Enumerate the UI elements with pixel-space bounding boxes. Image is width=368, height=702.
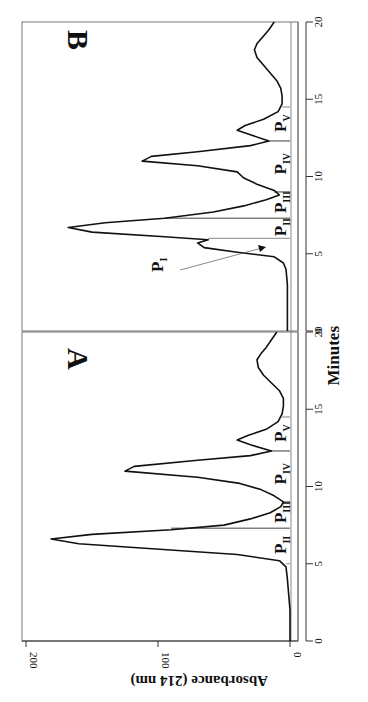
panel-b-letter: B: [62, 30, 95, 50]
peak-label-iv: PIV: [271, 152, 292, 174]
peak-label-iii: PIII: [271, 191, 292, 213]
panel-b-peak-regions: PIIPIIIPIVPV: [165, 107, 292, 238]
peak-label-ii: PII: [271, 218, 292, 236]
panel-a: 05101520 PIIPIIIPIVPV A: [22, 326, 324, 644]
y-tick-label: 100: [160, 652, 172, 669]
chromatogram-figure: 05101520 PIIPIIIPIVPV A 05101520 PIIPIII…: [0, 0, 368, 702]
panel-a-peak-regions: PIIPIIIPIVPV: [171, 417, 292, 564]
y-tick-label: 200: [28, 652, 40, 669]
panel-b-trace: [68, 22, 287, 331]
panel-a-trace: [51, 332, 290, 641]
x-tick-label: 10: [312, 171, 324, 183]
x-tick-label: 5: [312, 251, 324, 257]
y-tick-label: 0: [292, 652, 304, 658]
arrowhead-icon: [258, 245, 266, 252]
peak-label-v: PV: [271, 424, 292, 442]
y-tick-labels: 0100200: [26, 641, 304, 669]
p-i-annotation: PI: [148, 245, 266, 272]
x-tick-label: 20: [312, 16, 324, 28]
panel-a-letter: A: [62, 348, 95, 370]
peak-label-v: PV: [271, 114, 292, 132]
panel-b: 05101520 PIIPIIIPIVPV B PI: [22, 16, 324, 334]
x-tick-label: 0: [312, 638, 324, 644]
x-tick-label: 5: [312, 561, 324, 567]
x-tick-label: 10: [312, 481, 324, 493]
peak-label-ii: PII: [271, 536, 292, 554]
x-tick-label: 0: [312, 328, 324, 334]
panel-a-x-ticks: 05101520: [291, 326, 324, 644]
x-tick-label: 15: [312, 403, 324, 415]
panel-a-frame: [22, 332, 298, 641]
p-i-label: PI: [148, 258, 169, 272]
x-axis-title: Minutes: [324, 326, 343, 386]
peak-label-iv: PIV: [271, 462, 292, 484]
panel-b-frame: [22, 22, 298, 331]
y-axis-title: Absorbance (214 nm): [130, 672, 268, 689]
p-i-arrow: [180, 248, 262, 270]
panel-b-x-ticks: 05101520: [291, 16, 324, 334]
x-tick-label: 15: [312, 93, 324, 105]
